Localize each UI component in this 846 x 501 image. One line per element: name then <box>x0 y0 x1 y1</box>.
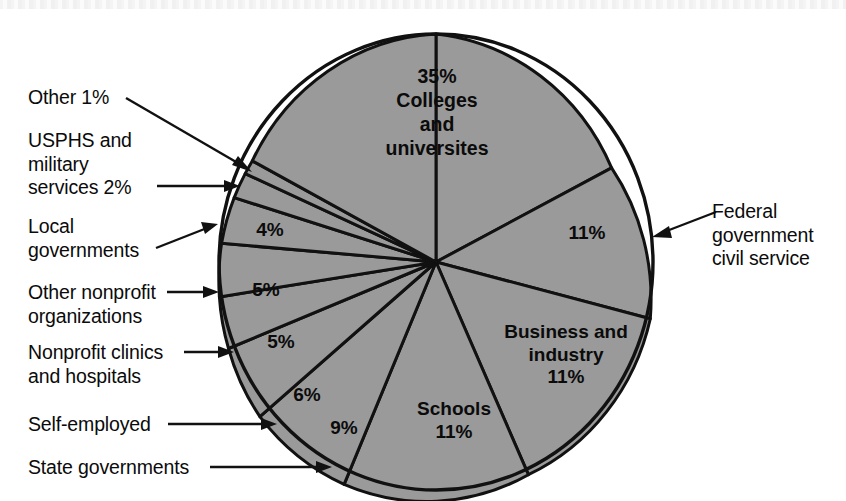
slice-label-business-and-industry: Business and industry 11% <box>504 321 628 389</box>
slice-label-self-employed: 6% <box>293 384 320 407</box>
slice-label-local-governments: 4% <box>256 219 283 242</box>
callout-label-other: Other 1% <box>28 86 109 110</box>
arrowhead-local-governments <box>201 222 218 234</box>
slice-label-federal-government-civil-service: 11% <box>569 222 606 245</box>
callout-label-federal-government-civil-service: Federal government civil service <box>712 200 813 271</box>
slice-label-schools: Schools 11% <box>417 398 491 443</box>
arrowhead-other-nonprofit <box>203 286 219 298</box>
callout-label-usphs-and-military-services: USPHS and military services 2% <box>28 129 132 200</box>
callout-label-state-governments: State governments <box>28 456 189 480</box>
leader-federal-government <box>664 212 716 232</box>
callout-label-nonprofit-clinics-and-hospitals: Nonprofit clinics and hospitals <box>28 341 163 388</box>
slice-label-nonprofit-clinics-and-hospitals: 5% <box>267 331 294 354</box>
leader-other <box>126 98 243 166</box>
pie-chart-figure: Other 1% USPHS and military services 2% … <box>0 0 846 501</box>
slice-label-state-governments: 9% <box>330 417 357 440</box>
slice-label-colleges-and-universites: 35% Colleges and universites <box>386 64 489 160</box>
slice-label-other-nonprofit-organizations: 5% <box>252 279 279 302</box>
callout-label-other-nonprofit-organizations: Other nonprofit organizations <box>28 281 156 328</box>
leader-local-governments <box>156 228 207 248</box>
callout-label-local-governments: Local governments <box>28 215 139 262</box>
arrowhead-federal-government <box>652 226 672 238</box>
callout-label-self-employed: Self-employed <box>28 413 151 437</box>
